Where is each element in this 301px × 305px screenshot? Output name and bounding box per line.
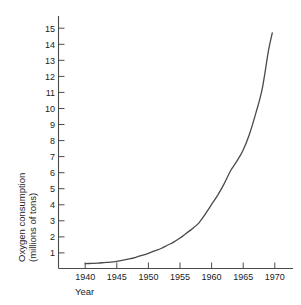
y-tick-label: 1 — [50, 248, 55, 258]
y-axis-tick-labels: 15 14 13 12 11 10 9 8 7 6 5 4 3 2 1 — [45, 24, 55, 259]
x-axis-title: Year — [75, 286, 94, 297]
x-tick-label: 1945 — [107, 272, 127, 282]
y-tick-label: 9 — [50, 120, 55, 130]
x-tick-label: 1960 — [202, 272, 222, 282]
x-tick-label: 1955 — [170, 272, 190, 282]
x-tick-label: 1950 — [138, 272, 158, 282]
y-tick-label: 7 — [50, 152, 55, 162]
y-axis-title: Oxygen consumption (millions of tons) — [16, 173, 38, 262]
y-tick-label: 8 — [50, 136, 55, 146]
y-tick-label: 14 — [45, 40, 55, 50]
oxygen-consumption-curve — [85, 33, 272, 264]
chart-plot-area: 15 14 13 12 11 10 9 8 7 6 5 4 3 2 1 — [0, 0, 301, 305]
x-tick-label: 1940 — [75, 272, 95, 282]
x-tick-label: 1970 — [265, 272, 285, 282]
y-axis-title-line1: Oxygen consumption — [16, 173, 27, 262]
y-axis-title-line2: (millions of tons) — [27, 193, 38, 262]
y-tick-label: 3 — [50, 216, 55, 226]
x-axis-tick-labels: 1940 1945 1950 1955 1960 1965 1970 — [75, 272, 285, 282]
y-tick-label: 5 — [50, 184, 55, 194]
y-tick-label: 15 — [45, 24, 55, 34]
y-tick-label: 13 — [45, 56, 55, 66]
y-tick-label: 10 — [45, 104, 55, 114]
chart-figure: 15 14 13 12 11 10 9 8 7 6 5 4 3 2 1 — [0, 0, 301, 305]
y-tick-label: 12 — [45, 72, 55, 82]
x-axis-ticks — [85, 263, 275, 269]
y-axis-ticks — [59, 28, 65, 253]
y-tick-label: 11 — [46, 88, 55, 98]
y-tick-label: 2 — [50, 232, 55, 242]
x-tick-label: 1965 — [233, 272, 253, 282]
y-tick-label: 6 — [50, 168, 55, 178]
y-tick-label: 4 — [50, 200, 55, 210]
